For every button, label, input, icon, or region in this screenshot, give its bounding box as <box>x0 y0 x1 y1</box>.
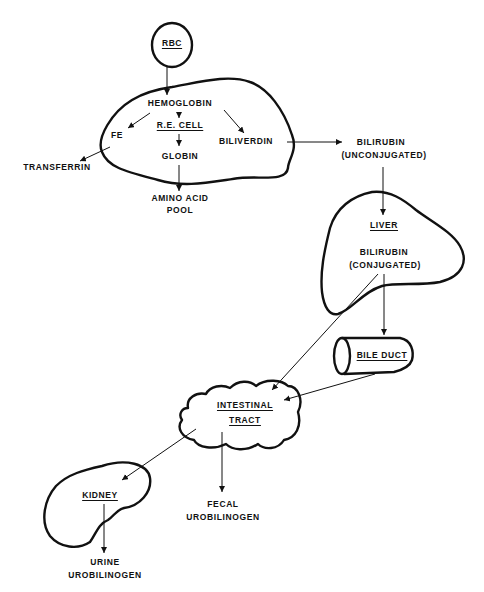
node-fecal-urobilinogen-1: FECAL <box>200 499 246 510</box>
node-rbc: RBC <box>158 38 186 49</box>
node-urine-urobilinogen-1: URINE <box>82 557 128 568</box>
node-bilirubin-conjugated-1: BILIRUBIN <box>348 247 420 258</box>
node-intestinal-tract-2: TRACT <box>222 415 268 426</box>
node-liver: LIVER <box>362 220 406 231</box>
node-amino-acid-pool-1: AMINO ACID <box>144 193 216 204</box>
node-bilirubin-unconjugated-1: BILIRUBIN <box>345 137 417 148</box>
kidney-shape <box>44 462 150 546</box>
node-re-cell: R.E. CELL <box>152 120 208 131</box>
arrow-intestine-kidney <box>122 429 196 480</box>
node-globin: GLOBIN <box>154 151 206 162</box>
node-biliverdin: BILIVERDIN <box>210 136 282 147</box>
arrow-hemoglobin-fe <box>128 113 150 128</box>
node-hemoglobin: HEMOGLOBIN <box>146 98 214 109</box>
bile-duct-opening <box>334 338 350 374</box>
node-amino-acid-pool-2: POOL <box>160 205 200 216</box>
diagram-canvas: RBC HEMOGLOBIN R.E. CELL FE GLOBIN BILIV… <box>0 0 484 592</box>
arrow-hemoglobin-biliverdin <box>224 110 244 133</box>
node-urine-urobilinogen-2: UROBILINOGEN <box>62 570 148 581</box>
node-bile-duct: BILE DUCT <box>352 350 412 361</box>
node-transferrin: TRANSFERRIN <box>18 162 96 173</box>
node-fe: FE <box>107 130 127 141</box>
node-bilirubin-unconjugated-2: (UNCONJUGATED) <box>338 150 430 161</box>
arrow-bileduct-intestine <box>284 374 375 400</box>
node-bilirubin-conjugated-2: (CONJUGATED) <box>344 260 426 271</box>
node-kidney: KIDNEY <box>76 490 124 501</box>
re-cell-blob <box>101 79 294 184</box>
node-fecal-urobilinogen-2: UROBILINOGEN <box>180 512 266 523</box>
node-intestinal-tract-1: INTESTINAL <box>210 400 280 411</box>
